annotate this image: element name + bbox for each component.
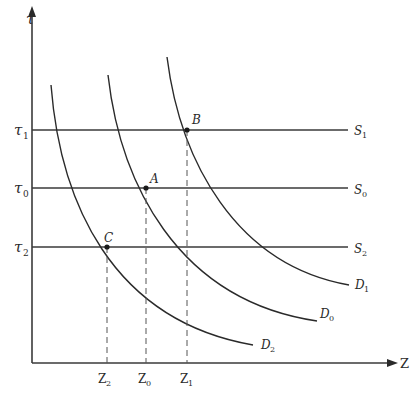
demand-label-d1: D 1 [354,278,369,294]
svg-text:2: 2 [270,345,275,354]
svg-text:2: 2 [106,379,111,388]
point-b [184,127,189,132]
x-tick-z1: Z 1 [180,372,193,388]
svg-text:2: 2 [23,248,29,258]
point-label-a: A [149,172,159,186]
y-axis-label: τ [26,10,35,28]
svg-text:0: 0 [329,314,334,323]
svg-text:0: 0 [362,190,367,199]
x-axis-label: Z [400,356,409,371]
point-a [143,185,148,190]
svg-text:2: 2 [362,249,367,258]
x-tick-z0: Z 0 [138,372,151,388]
demand-label-d0: D 0 [319,307,334,323]
svg-text:0: 0 [23,189,29,199]
y-tick-tau2: τ 2 [14,238,29,258]
x-tick-z2: Z 2 [98,372,111,388]
point-label-c: C [104,231,113,245]
svg-text:0: 0 [146,379,151,388]
x-axis-arrow-icon [387,359,398,367]
y-tick-tau0: τ 0 [14,179,29,199]
demand-label-d2: D 2 [260,338,275,354]
svg-text:τ: τ [14,238,23,256]
svg-text:1: 1 [362,131,367,140]
y-tick-tau1: τ 1 [14,121,29,141]
svg-text:1: 1 [364,285,369,294]
svg-text:1: 1 [23,131,29,141]
svg-text:τ: τ [14,121,23,139]
svg-text:S: S [354,242,362,256]
svg-text:τ: τ [14,179,23,197]
point-label-b: B [191,113,201,127]
demand-curve-d0 [108,75,317,321]
demand-curve-d1 [167,57,349,285]
svg-text:1: 1 [188,379,193,388]
supply-label-s1: S 1 [354,124,367,140]
supply-label-s2: S 2 [354,242,367,258]
svg-text:S: S [354,124,362,138]
svg-text:S: S [354,183,362,197]
demand-curve-d2 [51,85,253,345]
supply-demand-diagram: B A C τ Z τ 1 τ 0 τ 2 Z 2 Z 0 Z 1 S 1 S … [0,0,413,397]
point-c [104,244,109,249]
supply-label-s0: S 0 [354,183,367,199]
